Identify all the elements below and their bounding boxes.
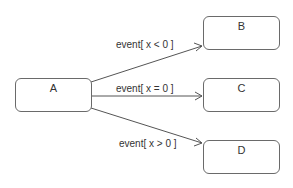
transition-a-b-label: event[ x < 0 ] bbox=[116, 39, 174, 50]
state-a-name: A bbox=[16, 82, 91, 94]
state-c-name: C bbox=[204, 82, 279, 94]
state-b-name: B bbox=[204, 20, 279, 32]
transition-a-b-line bbox=[91, 46, 202, 82]
state-d[interactable]: D bbox=[203, 140, 280, 174]
transition-a-c-label: event[ x = 0 ] bbox=[116, 83, 174, 94]
state-a[interactable]: A bbox=[15, 78, 92, 112]
state-b[interactable]: B bbox=[203, 16, 280, 50]
state-d-name: D bbox=[204, 144, 279, 156]
state-c[interactable]: C bbox=[203, 78, 280, 112]
transition-a-d-label: event[ x > 0 ] bbox=[119, 138, 177, 149]
